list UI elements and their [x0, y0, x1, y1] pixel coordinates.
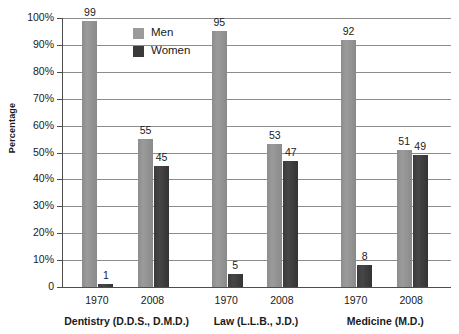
bar-men-1970-1: [212, 31, 227, 287]
gridline: [63, 18, 451, 19]
bar-men-1970-0: [82, 21, 97, 287]
y-axis-tick-label: 80%: [6, 66, 54, 77]
y-axis-tick-label: 90%: [6, 39, 54, 50]
bar-women-2008-2: [413, 155, 428, 287]
x-axis-year-label: 2008: [381, 294, 441, 306]
x-axis-year-label: 2008: [252, 294, 312, 306]
x-axis-year-label: 1970: [326, 294, 386, 306]
bar-value-label: 5: [220, 260, 251, 271]
bar-value-label: 1: [90, 270, 121, 281]
gridline: [63, 260, 451, 261]
bar-value-label: 55: [130, 125, 161, 136]
x-axis-year-label: 1970: [196, 294, 256, 306]
bar-value-label: 99: [74, 7, 105, 18]
y-axis-tick-label: 10%: [6, 254, 54, 265]
plot-area: 991554595553479285149: [62, 18, 451, 288]
y-axis-tick-label: 100%: [6, 12, 54, 23]
bar-chart: Percentage 100%90%80%70%60%50%40%30%20%1…: [0, 0, 459, 334]
gridline: [63, 179, 451, 180]
y-axis-tick-label: 0: [6, 281, 54, 292]
gridline: [63, 233, 451, 234]
bar-value-label: 45: [146, 152, 177, 163]
y-axis-tick-label: 40%: [6, 173, 54, 184]
y-axis-title: Percentage: [7, 88, 17, 168]
legend-label-men: Men: [151, 27, 173, 39]
legend-swatch-men-icon: [133, 28, 144, 39]
gridline: [63, 99, 451, 100]
bar-men-2008-2: [397, 150, 412, 287]
bar-value-label: 95: [204, 17, 235, 28]
gridline: [63, 126, 451, 127]
legend-item-women[interactable]: Women: [133, 42, 190, 60]
bar-value-label: 53: [259, 130, 290, 141]
x-axis-year-label: 2008: [123, 294, 183, 306]
legend-swatch-women-icon: [133, 46, 144, 57]
legend-label-women: Women: [151, 45, 190, 57]
bar-women-1970-0: [98, 284, 113, 287]
y-axis-tick-label: 20%: [6, 227, 54, 238]
bar-value-label: 8: [349, 251, 380, 262]
bar-women-1970-2: [357, 265, 372, 287]
legend: Men Women: [133, 24, 190, 60]
bar-men-1970-2: [341, 40, 356, 287]
bar-women-2008-1: [283, 161, 298, 287]
gridline: [63, 153, 451, 154]
bar-value-label: 92: [333, 26, 364, 37]
bar-value-label: 49: [405, 141, 436, 152]
bar-men-2008-1: [267, 144, 282, 287]
x-axis-year-label: 1970: [67, 294, 127, 306]
bar-women-1970-1: [228, 274, 243, 287]
gridline: [63, 72, 451, 73]
gridline: [63, 206, 451, 207]
y-axis-tick-label: 30%: [6, 200, 54, 211]
legend-item-men[interactable]: Men: [133, 24, 190, 42]
gridline: [63, 45, 451, 46]
x-axis-group-label: Medicine (M.D.): [295, 315, 459, 327]
bar-value-label: 47: [275, 147, 306, 158]
bar-women-2008-0: [154, 166, 169, 287]
